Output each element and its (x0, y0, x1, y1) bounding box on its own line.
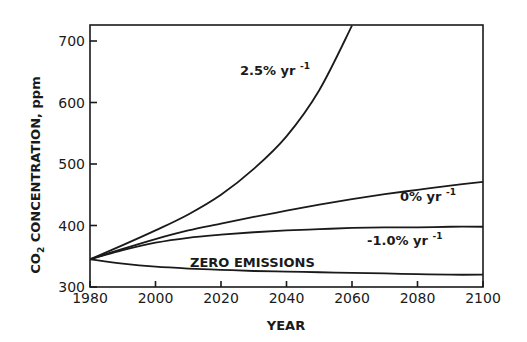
label-0-percent: 0% yr -1 (400, 187, 456, 204)
x-tick-label: 2020 (203, 290, 239, 306)
x-tick-label: 1980 (72, 290, 108, 306)
y-tick-label: 500 (58, 156, 85, 172)
y-axis-ticks: 300400500600700 (58, 33, 97, 295)
curve-labels: 2.5% yr -10% yr -1-1.0% yr -1ZERO EMISSI… (190, 61, 456, 270)
x-tick-label: 2040 (269, 290, 305, 306)
x-tick-label: 2100 (465, 290, 501, 306)
x-axis-ticks: 1980200020202040206020802100 (72, 281, 501, 306)
label-2-5-percent: 2.5% yr -1 (240, 61, 310, 78)
label-zero-emissions: ZERO EMISSIONS (190, 255, 315, 270)
co2-concentration-chart: 300400500600700 198020002020204020602080… (0, 0, 527, 342)
x-tick-label: 2000 (138, 290, 174, 306)
y-tick-label: 400 (58, 218, 85, 234)
y-tick-label: 600 (58, 95, 85, 111)
y-tick-label: 700 (58, 33, 85, 49)
x-tick-label: 2060 (334, 290, 370, 306)
x-axis-title: YEAR (266, 318, 305, 333)
label-minus-1-percent: -1.0% yr -1 (367, 231, 442, 248)
y-axis-title: CO2 CONCENTRATION, ppm (28, 76, 46, 273)
x-tick-label: 2080 (400, 290, 436, 306)
